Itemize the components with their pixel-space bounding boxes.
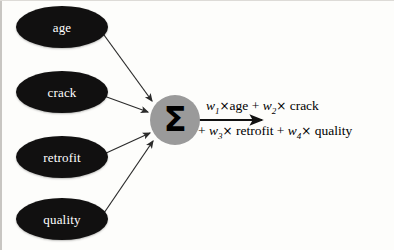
formula-line-2: + w3× retrofit + w4× quality [198, 121, 392, 146]
input-node-crack-label: crack [47, 86, 76, 99]
input-node-age-label: age [53, 21, 72, 34]
plus-sign-2: + [198, 123, 206, 138]
input-node-retrofit[interactable]: retrofit [16, 136, 108, 178]
edge-crack-to-sum [104, 96, 148, 112]
sigma-icon: Σ [163, 102, 186, 136]
edge-retrofit-to-sum [104, 133, 150, 154]
times-sign-4: × [301, 124, 311, 138]
variable-1: age [230, 98, 249, 113]
variable-2-text: crack [290, 98, 319, 113]
edge-age-to-sum [104, 35, 152, 101]
summation-node[interactable]: Σ [150, 95, 200, 145]
input-node-crack[interactable]: crack [16, 71, 108, 113]
times-sign-2: × [276, 99, 286, 113]
weight-2: w2 [263, 98, 277, 113]
weight-4: w4 [288, 123, 302, 138]
input-node-age[interactable]: age [16, 6, 108, 48]
input-node-quality-label: quality [43, 213, 81, 226]
variable-3: retrofit [236, 123, 273, 138]
diagram-canvas: age crack retrofit quality Σ w1×age + w2… [0, 0, 394, 250]
variable-4: quality [315, 123, 353, 138]
output-formula: w1×age + w2× crack + w3× retrofit + w4× … [206, 96, 392, 145]
edge-quality-to-sum [104, 141, 153, 213]
times-sign-1: × [220, 99, 230, 113]
input-node-quality[interactable]: quality [16, 198, 108, 240]
weight-3: w3 [209, 123, 223, 138]
weight-1: w1 [206, 98, 220, 113]
input-node-retrofit-label: retrofit [43, 151, 81, 164]
plus-sign-1: + [248, 98, 262, 113]
formula-line-1: w1×age + w2× crack [206, 96, 392, 121]
times-sign-3: × [223, 124, 233, 138]
plus-sign-3: + [273, 123, 287, 138]
